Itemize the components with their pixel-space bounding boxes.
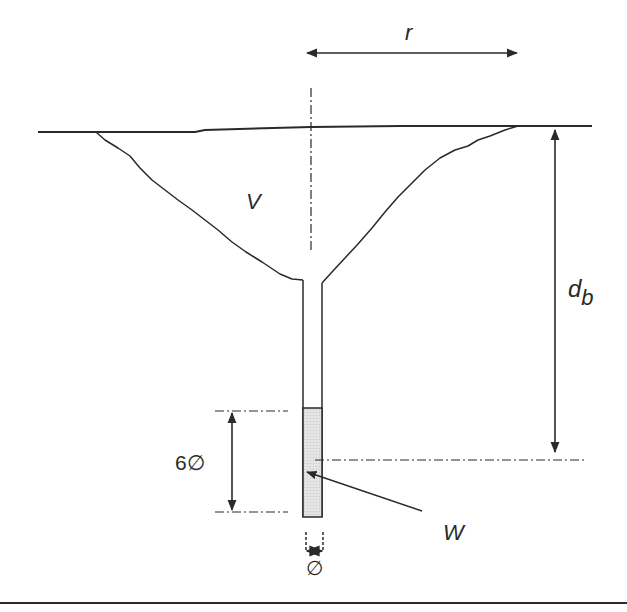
charge-weight-callout: W: [307, 472, 466, 545]
depth-label: db: [568, 275, 594, 310]
crater-profile: [96, 126, 518, 283]
diameter-label: ∅: [306, 557, 323, 579]
charge: [303, 408, 322, 517]
crater-diagram: r V db 6∅ W ∅: [0, 0, 627, 612]
depth-dimension: db: [555, 130, 594, 452]
radius-label: r: [405, 20, 414, 45]
radius-dimension: r: [307, 20, 517, 53]
diameter-dimension: ∅: [306, 532, 323, 579]
charge-length-dimension: 6∅: [175, 411, 288, 512]
volume-label: V: [246, 189, 263, 214]
charge-length-label: 6∅: [175, 451, 205, 474]
charge-weight-label: W: [443, 520, 466, 545]
